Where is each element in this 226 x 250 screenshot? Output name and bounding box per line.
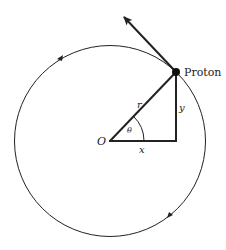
proton-label: Proton bbox=[184, 66, 221, 79]
proton-dot bbox=[172, 68, 180, 76]
y-label: y bbox=[178, 102, 185, 113]
x-label: x bbox=[139, 144, 145, 155]
angle-label: θ bbox=[127, 126, 132, 135]
circular-motion-diagram: Proton O r θ x y bbox=[0, 0, 226, 250]
velocity-vector-arrow bbox=[124, 17, 176, 72]
path-direction-arrow-top-icon bbox=[57, 55, 63, 61]
origin-label: O bbox=[97, 135, 106, 148]
angle-arc bbox=[134, 116, 145, 141]
